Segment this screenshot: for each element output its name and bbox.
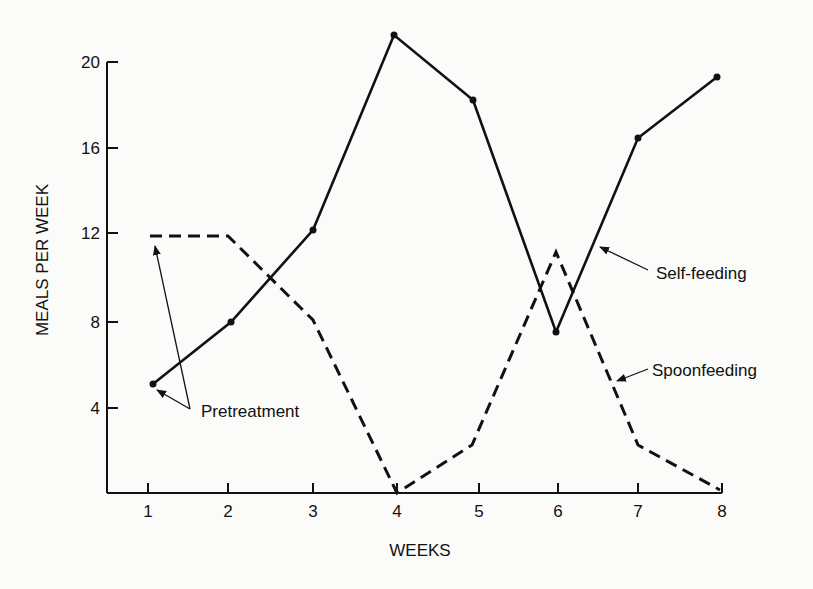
chart: 4 8 12 16 20 1 2 3 4 5 6 7 8 WEEKS MEALS… xyxy=(0,0,813,589)
y-axis: 4 8 12 16 20 xyxy=(81,53,118,493)
x-tick-label: 4 xyxy=(392,502,401,521)
spoonfeeding-label: Spoonfeeding xyxy=(652,361,757,380)
x-tick-label: 6 xyxy=(553,502,562,521)
pretreatment-arrows xyxy=(155,246,190,409)
y-tick-label: 4 xyxy=(91,399,100,418)
x-axis-title: WEEKS xyxy=(389,541,450,560)
pretreatment-label: Pretreatment xyxy=(201,402,300,421)
x-tick-label: 2 xyxy=(223,502,232,521)
self-feeding-line xyxy=(153,35,717,384)
spoonfeeding-arrow xyxy=(617,369,648,381)
self-feeding-arrow xyxy=(600,247,648,270)
y-tick-label: 12 xyxy=(81,224,100,243)
x-axis: 1 2 3 4 5 6 7 8 xyxy=(107,483,727,521)
y-tick-label: 8 xyxy=(91,313,100,332)
spoonfeeding-line xyxy=(150,236,720,493)
x-tick-label: 1 xyxy=(143,502,152,521)
x-tick-label: 7 xyxy=(633,502,642,521)
y-axis-title: MEALS PER WEEK xyxy=(33,183,52,336)
x-tick-label: 5 xyxy=(474,502,483,521)
y-tick-label: 16 xyxy=(81,139,100,158)
self-feeding-markers xyxy=(150,32,721,388)
x-tick-label: 8 xyxy=(717,502,726,521)
x-tick-label: 3 xyxy=(308,502,317,521)
y-tick-label: 20 xyxy=(81,53,100,72)
self-feeding-label: Self-feeding xyxy=(656,264,747,283)
